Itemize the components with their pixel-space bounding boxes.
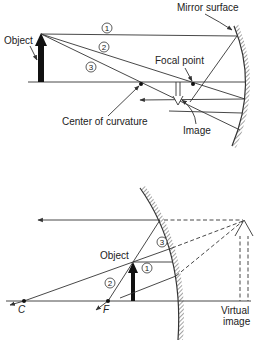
center-of-curvature-label: Center of curvature bbox=[62, 116, 148, 127]
bottom-figure: 1 2 3 Object C F Virtual image bbox=[6, 186, 253, 340]
svg-text:3: 3 bbox=[160, 238, 165, 247]
svg-text:1: 1 bbox=[145, 264, 150, 273]
svg-text:2: 2 bbox=[108, 279, 113, 288]
mirror-surface-label: Mirror surface bbox=[177, 2, 239, 13]
bottom-ray-number-2: 2 bbox=[105, 278, 115, 288]
top-focal-point-dot bbox=[191, 82, 195, 86]
top-image-label: Image bbox=[183, 125, 211, 136]
bottom-ray-number-1: 1 bbox=[142, 263, 152, 273]
top-ray-number-1: 1 bbox=[102, 23, 112, 33]
mirror-ray-diagram: 1 2 3 Mirror surface Object Focal point … bbox=[0, 0, 272, 347]
top-ray-number-3: 3 bbox=[86, 62, 96, 72]
top-center-of-curvature-dot bbox=[139, 82, 143, 86]
top-mirror bbox=[232, 24, 250, 148]
c-label: C bbox=[18, 304, 26, 315]
bottom-ray-number-3: 3 bbox=[157, 237, 167, 247]
svg-text:3: 3 bbox=[89, 63, 94, 72]
top-figure: 1 2 3 Mirror surface Object Focal point … bbox=[4, 2, 250, 148]
svg-text:1: 1 bbox=[105, 24, 110, 33]
center-c-dot bbox=[22, 299, 26, 303]
virtual-image-label-line1: Virtual bbox=[221, 305, 249, 316]
virtual-image-arrow bbox=[235, 220, 253, 301]
top-object-label: Object bbox=[4, 35, 33, 46]
top-object-arrow bbox=[35, 33, 47, 82]
bottom-object-label: Object bbox=[100, 250, 129, 261]
svg-text:2: 2 bbox=[102, 43, 107, 52]
focal-point-label: Focal point bbox=[155, 55, 204, 66]
virtual-image-label-line2: image bbox=[223, 316, 251, 327]
f-label: F bbox=[103, 304, 110, 315]
top-ray-number-2: 2 bbox=[99, 42, 109, 52]
focal-f-dot bbox=[106, 299, 110, 303]
